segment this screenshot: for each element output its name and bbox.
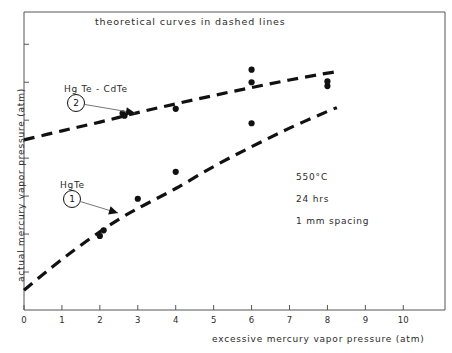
axes-frame: [24, 12, 445, 310]
x-axis-label: excessive mercury vapor pressure (atm): [212, 334, 425, 344]
series-2-label: Hg Te - CdTe: [64, 84, 128, 94]
x-tick-label: 8: [317, 315, 337, 325]
plot-canvas: 12: [0, 0, 452, 353]
condition-spacing: 1 mm spacing: [296, 216, 369, 226]
x-tick-label: 5: [204, 315, 224, 325]
x-tick-label: 3: [128, 315, 148, 325]
chart-figure: 12 theoretical curves in dashed lines ex…: [0, 0, 452, 353]
condition-temperature: 550°C: [296, 172, 328, 182]
x-tick-label: 10: [393, 315, 413, 325]
series-2-badge: 2: [73, 98, 79, 108]
x-tick-label: 9: [355, 315, 375, 325]
x-tick-label: 4: [166, 315, 186, 325]
x-tick-label: 0: [14, 315, 34, 325]
series-1-badge: 1: [69, 194, 75, 204]
x-tick-label: 6: [242, 315, 262, 325]
condition-duration: 24 hrs: [296, 194, 329, 204]
y-axis-label: actual mercury vapor pressure (atm): [16, 80, 26, 290]
series-1-label: HgTe: [60, 180, 85, 190]
chart-title: theoretical curves in dashed lines: [95, 16, 286, 27]
x-tick-label: 7: [279, 315, 299, 325]
x-tick-label: 2: [90, 315, 110, 325]
x-tick-label: 1: [52, 315, 72, 325]
